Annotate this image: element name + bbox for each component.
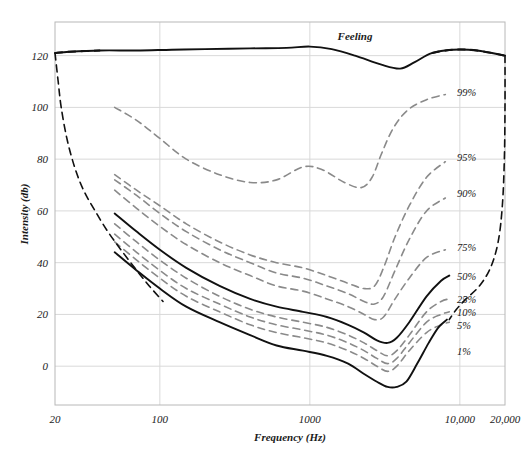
- y-tick-label: 0: [43, 360, 49, 372]
- curve-label-5pct: 5%: [457, 320, 471, 331]
- x-tick-label: 100: [152, 413, 169, 425]
- y-tick-label: 20: [37, 308, 49, 320]
- y-tick-label: 60: [37, 205, 49, 217]
- curve-label-10pct: 10%: [457, 307, 477, 318]
- x-tick-label: 20,000: [490, 413, 521, 425]
- chart-background: [0, 0, 528, 452]
- curve-label-90pct: 90%: [457, 188, 477, 199]
- y-tick-label: 80: [37, 153, 49, 165]
- y-tick-label: 100: [32, 101, 49, 113]
- x-tick-label: 20: [50, 413, 62, 425]
- curve-label-50pct: 50%: [457, 271, 477, 282]
- x-tick-label: 10,000: [445, 413, 476, 425]
- curve-label-95pct: 95%: [457, 152, 477, 163]
- chart-annotations: Feeling: [337, 30, 373, 42]
- y-axis-title: Intensity (db): [18, 184, 31, 246]
- curve-label-75pct: 75%: [457, 242, 477, 253]
- curve-label-99pct: 99%: [457, 87, 477, 98]
- y-tick-label: 40: [37, 257, 49, 269]
- curve-label-25pct: 25%: [457, 294, 477, 305]
- annotation-feeling: Feeling: [337, 30, 373, 42]
- audiogram-chart: 020406080100120 20100100010,00020,000 99…: [0, 0, 528, 452]
- curve-label-1pct: 1%: [457, 346, 471, 357]
- x-axis-title: Frequency (Hz): [253, 431, 326, 444]
- x-tick-label: 1000: [299, 413, 322, 425]
- chart-svg: 020406080100120 20100100010,00020,000 99…: [0, 0, 528, 452]
- y-tick-label: 120: [32, 50, 49, 62]
